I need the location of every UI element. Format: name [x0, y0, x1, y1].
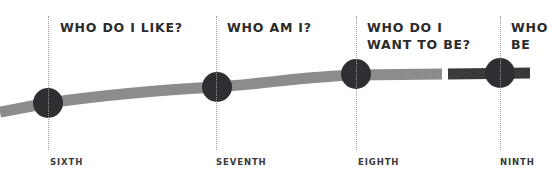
node-seventh [202, 72, 232, 102]
question-sixth: WHO DO I LIKE? [60, 19, 183, 36]
guide-line-sixth [48, 16, 49, 150]
guide-line-seventh [216, 16, 217, 150]
grade-label-ninth: NINTH [500, 157, 535, 167]
question-eighth: WHO DO I WANT TO BE? [367, 19, 471, 53]
grade-label-eighth: EIGHTH [358, 157, 399, 167]
grade-label-seventh: SEVENTH [216, 157, 267, 167]
guide-line-ninth [500, 16, 501, 150]
guide-line-eighth [356, 16, 357, 150]
question-seventh: WHO AM I? [227, 19, 312, 36]
grade-label-sixth: SIXTH [50, 157, 83, 167]
question-ninth: WHO BE [511, 19, 548, 53]
